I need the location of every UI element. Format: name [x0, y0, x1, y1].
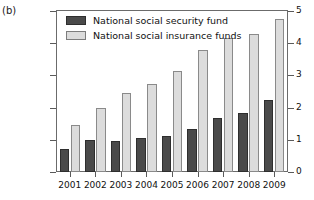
y-tick-label: 2 — [296, 103, 302, 112]
y-tick-right — [288, 172, 294, 173]
x-tick — [274, 172, 275, 177]
bar-security-fund-2001 — [60, 149, 70, 172]
bar-insurance-funds-2002 — [96, 108, 106, 172]
y-tick-left — [50, 172, 56, 173]
bar-security-fund-2009 — [264, 100, 274, 172]
figure-panel-b: (b) 200120022003200420052006200720082009… — [0, 0, 314, 200]
y-tick-left — [50, 11, 56, 12]
y-tick-left — [50, 108, 56, 109]
y-tick-right — [288, 75, 294, 76]
bar-insurance-funds-2004 — [147, 84, 157, 172]
bar-group — [264, 11, 285, 172]
y-tick-right — [288, 108, 294, 109]
bar-security-fund-2004 — [136, 138, 146, 172]
x-tick — [121, 172, 122, 177]
bar-security-fund-2008 — [238, 113, 248, 172]
bar-insurance-funds-2007 — [224, 38, 234, 172]
x-tick — [172, 172, 173, 177]
y-tick-left — [50, 75, 56, 76]
y-tick-label: 4 — [296, 38, 302, 47]
bar-security-fund-2002 — [85, 140, 95, 172]
bar-security-fund-2007 — [213, 118, 223, 172]
y-tick-label: 0 — [296, 167, 302, 176]
bar-security-fund-2005 — [162, 136, 172, 172]
y-tick-right — [288, 43, 294, 44]
y-tick-label: 1 — [296, 135, 302, 144]
bar-insurance-funds-2006 — [198, 50, 208, 172]
y-tick-left — [50, 43, 56, 44]
light-swatch-icon — [66, 31, 86, 40]
x-tick — [70, 172, 71, 177]
x-tick — [95, 172, 96, 177]
x-tick — [198, 172, 199, 177]
panel-label: (b) — [2, 5, 16, 16]
legend-label: National social insurance funds — [93, 31, 242, 41]
dark-swatch-icon — [66, 16, 86, 25]
legend-label: National social security fund — [93, 16, 228, 26]
y-tick-right — [288, 140, 294, 141]
x-tick — [223, 172, 224, 177]
y-tick-right — [288, 11, 294, 12]
bar-security-fund-2003 — [111, 141, 121, 172]
y-tick-label: 5 — [296, 6, 302, 15]
bar-insurance-funds-2009 — [275, 19, 285, 172]
x-tick-label-2009: 2009 — [257, 180, 291, 190]
legend-item: National social insurance funds — [66, 29, 242, 42]
bar-insurance-funds-2001 — [71, 125, 81, 172]
chart-legend: National social security fundNational so… — [66, 14, 242, 44]
y-tick-left — [50, 140, 56, 141]
bar-insurance-funds-2008 — [249, 34, 259, 172]
y-tick-label: 3 — [296, 70, 302, 79]
x-tick — [146, 172, 147, 177]
bar-insurance-funds-2005 — [173, 71, 183, 172]
x-tick — [249, 172, 250, 177]
legend-item: National social security fund — [66, 14, 242, 27]
bar-insurance-funds-2003 — [122, 93, 132, 172]
bar-security-fund-2006 — [187, 129, 197, 172]
